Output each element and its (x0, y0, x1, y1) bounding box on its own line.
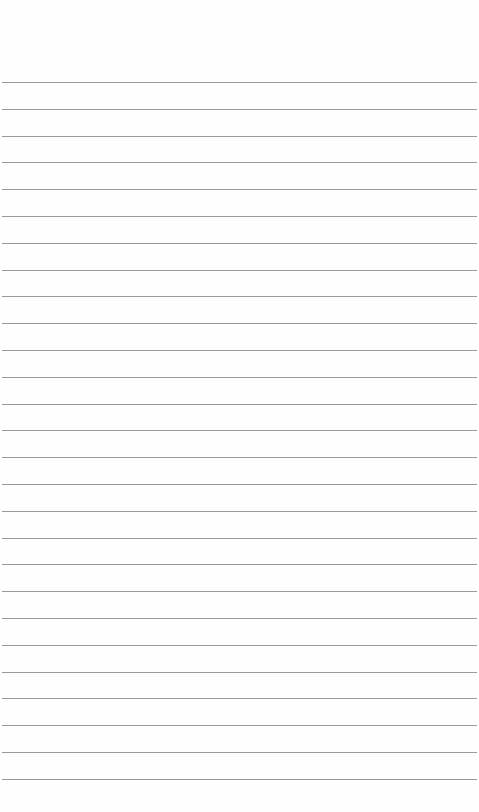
ruled-line (2, 511, 477, 512)
ruled-line (2, 591, 477, 592)
ruled-line (2, 243, 477, 244)
ruled-line (2, 645, 477, 646)
ruled-line (2, 82, 477, 83)
ruled-line (2, 752, 477, 753)
ruled-line (2, 430, 477, 431)
ruled-line (2, 109, 477, 110)
ruled-line (2, 270, 477, 271)
ruled-line (2, 296, 477, 297)
ruled-line (2, 484, 477, 485)
ruled-line (2, 404, 477, 405)
ruled-line (2, 136, 477, 137)
ruled-line (2, 672, 477, 673)
ruled-line (2, 779, 477, 780)
ruled-line (2, 538, 477, 539)
ruled-line (2, 189, 477, 190)
ruled-line (2, 725, 477, 726)
ruled-paper-sheet (0, 0, 479, 812)
ruled-line (2, 162, 477, 163)
ruled-line (2, 564, 477, 565)
ruled-line (2, 323, 477, 324)
ruled-line (2, 618, 477, 619)
ruled-line (2, 350, 477, 351)
ruled-line (2, 457, 477, 458)
ruled-line (2, 698, 477, 699)
ruled-line (2, 216, 477, 217)
ruled-line (2, 377, 477, 378)
